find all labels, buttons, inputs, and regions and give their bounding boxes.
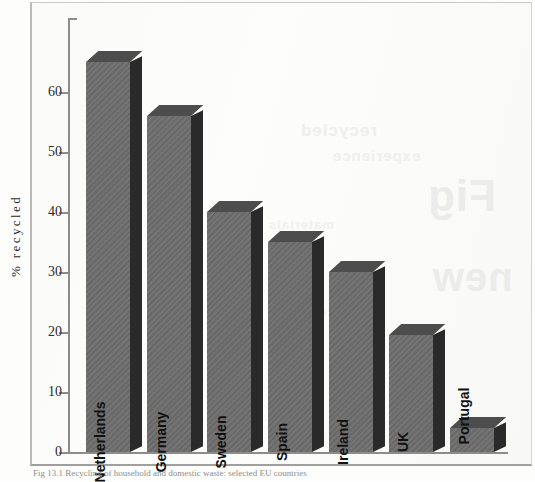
bar-netherlands[interactable]: Netherlands bbox=[86, 62, 130, 452]
bar-label: Ireland bbox=[335, 419, 351, 465]
bar-front-face bbox=[268, 242, 312, 452]
y-tick-label: 10 bbox=[48, 384, 62, 400]
bar-front-face bbox=[147, 116, 191, 452]
y-tick-label: 60 bbox=[48, 84, 62, 100]
y-axis-top-cap bbox=[68, 18, 77, 20]
bar-uk[interactable]: UK bbox=[389, 335, 433, 452]
y-tick-label: 20 bbox=[48, 324, 62, 340]
y-axis-line bbox=[68, 18, 70, 454]
y-axis-title: % recycled bbox=[8, 195, 24, 277]
y-tick-label: 30 bbox=[48, 264, 62, 280]
bar-label: Portugal bbox=[456, 388, 472, 445]
bar-chart-plot-area: % recycled 6050403020100 NetherlandsGerm… bbox=[68, 18, 508, 454]
figure-caption: Fig 13.1 Recycling of household and dome… bbox=[33, 468, 533, 478]
bar-label: UK bbox=[395, 432, 411, 452]
y-tick-label: 40 bbox=[48, 204, 62, 220]
bar-germany[interactable]: Germany bbox=[147, 116, 191, 452]
bar-label: Germany bbox=[153, 412, 169, 473]
bar-ireland[interactable]: Ireland bbox=[329, 272, 373, 452]
bar-side-face bbox=[130, 56, 142, 452]
bar-side-face bbox=[312, 236, 324, 452]
bar-side-face bbox=[251, 206, 263, 452]
bar-portugal[interactable]: Portugal bbox=[450, 428, 494, 452]
bar-sweden[interactable]: Sweden bbox=[207, 212, 251, 452]
bar-label: Sweden bbox=[213, 416, 229, 469]
bar-label: Spain bbox=[274, 423, 290, 461]
bar-front-face bbox=[86, 62, 130, 452]
bar-side-face bbox=[191, 110, 203, 452]
y-tick-label: 0 bbox=[55, 444, 62, 460]
bar-side-face bbox=[373, 266, 385, 452]
bar-side-face bbox=[433, 329, 445, 452]
bar-spain[interactable]: Spain bbox=[268, 242, 312, 452]
y-tick-label: 50 bbox=[48, 144, 62, 160]
